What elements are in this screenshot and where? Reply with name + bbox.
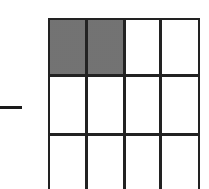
- empty-cell: [124, 18, 161, 76]
- empty-cell: [86, 75, 125, 135]
- shaded-cell: [86, 18, 125, 76]
- empty-cell: [160, 75, 200, 135]
- empty-cell: [160, 134, 200, 189]
- empty-cell: [124, 134, 161, 189]
- empty-cell: [48, 134, 87, 189]
- empty-cell: [86, 134, 125, 189]
- minus-sign: [0, 106, 22, 109]
- empty-cell: [124, 75, 161, 135]
- shaded-cell: [48, 18, 87, 76]
- empty-cell: [160, 18, 200, 76]
- fraction-grid: [48, 18, 200, 189]
- empty-cell: [48, 75, 87, 135]
